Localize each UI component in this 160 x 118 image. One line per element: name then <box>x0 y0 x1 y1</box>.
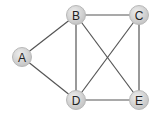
nodes-group: ABCDE <box>13 6 149 110</box>
edges-group <box>22 15 139 100</box>
node-label: C <box>135 9 144 23</box>
node-label: B <box>72 9 80 23</box>
edge-A-D <box>22 57 76 100</box>
node-label: A <box>18 51 26 65</box>
node-label: D <box>72 94 81 108</box>
edge-A-B <box>22 15 76 57</box>
node-D: D <box>67 91 86 110</box>
node-A: A <box>13 48 32 67</box>
node-E: E <box>130 91 149 110</box>
node-C: C <box>130 6 149 25</box>
graph-diagram: ABCDE <box>0 0 160 118</box>
node-B: B <box>67 6 86 25</box>
node-label: E <box>135 94 143 108</box>
